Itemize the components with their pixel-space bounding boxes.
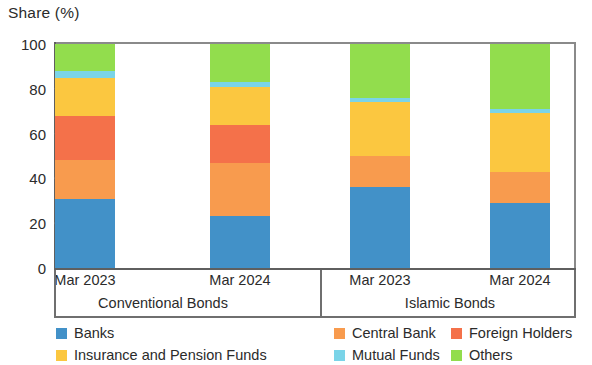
bar-segment	[350, 156, 410, 187]
group-axis-baseline	[54, 316, 576, 318]
legend-swatch-icon	[451, 328, 462, 339]
bar-segment	[55, 116, 115, 161]
legend-swatch-icon	[451, 350, 462, 361]
bar-segment	[55, 160, 115, 198]
x-axis-category-labels: Mar 2023Mar 2024Mar 2023Mar 2024	[55, 272, 575, 294]
bar-segment	[55, 78, 115, 116]
legend-label: Insurance and Pension Funds	[74, 348, 267, 363]
legend-item: Banks	[56, 326, 114, 341]
bar-segment	[490, 44, 550, 109]
bar-stack	[55, 44, 115, 268]
y-axis-tick-label: 40	[2, 170, 46, 187]
chart-legend: BanksCentral BankForeign HoldersInsuranc…	[56, 326, 586, 365]
x-axis-tick-label: Mar 2023	[349, 272, 410, 288]
bar-segment	[55, 199, 115, 268]
bar-segment	[350, 98, 410, 102]
legend-item: Others	[451, 348, 513, 363]
legend-item: Insurance and Pension Funds	[56, 348, 267, 363]
bar-segment	[490, 109, 550, 113]
legend-swatch-icon	[334, 328, 345, 339]
legend-label: Banks	[74, 326, 114, 341]
bar-segment	[350, 44, 410, 98]
legend-item: Foreign Holders	[451, 326, 572, 341]
legend-item: Mutual Funds	[334, 348, 440, 363]
x-axis-tick-label: Mar 2024	[489, 272, 550, 288]
y-axis-tick-label: 80	[2, 80, 46, 97]
bar-segment	[55, 71, 115, 78]
group-axis-left-cap	[54, 270, 56, 318]
y-axis-tick-label: 60	[2, 125, 46, 142]
legend-swatch-icon	[334, 350, 345, 361]
legend-swatch-icon	[56, 350, 67, 361]
y-axis-tick-label: 100	[2, 36, 46, 53]
legend-label: Others	[469, 348, 513, 363]
bar-segment	[55, 44, 115, 71]
legend-label: Foreign Holders	[469, 326, 572, 341]
x-axis-group-label: Conventional Bonds	[98, 295, 228, 311]
bar-stack	[350, 44, 410, 268]
x-axis-tick-label: Mar 2023	[54, 272, 115, 288]
bar-segment	[210, 44, 270, 82]
stacked-bar-chart: Share (%) 020406080100 Mar 2023Mar 2024M…	[0, 0, 592, 365]
x-axis-line	[54, 268, 576, 270]
group-divider	[320, 270, 322, 318]
legend-item: Central Bank	[334, 326, 436, 341]
bar-segment	[350, 102, 410, 156]
bar-segment	[350, 187, 410, 268]
bar-stack	[490, 44, 550, 268]
bar-segment	[490, 172, 550, 203]
bar-segment	[490, 203, 550, 268]
bar-segment	[210, 82, 270, 86]
legend-swatch-icon	[56, 328, 67, 339]
legend-label: Central Bank	[352, 326, 436, 341]
bar-stack	[210, 44, 270, 268]
y-axis-tick-label: 0	[2, 260, 46, 277]
legend-label: Mutual Funds	[352, 348, 440, 363]
bar-segment	[210, 125, 270, 163]
bar-segment	[490, 113, 550, 171]
y-axis-tick-label: 20	[2, 215, 46, 232]
plot-area	[55, 44, 575, 268]
x-axis-tick-label: Mar 2024	[209, 272, 270, 288]
x-axis-group-labels: Conventional BondsIslamic Bonds	[55, 295, 575, 317]
x-axis-group-label: Islamic Bonds	[405, 295, 495, 311]
bar-segment	[210, 216, 270, 268]
bar-segment	[210, 163, 270, 217]
group-axis-right-cap	[574, 270, 576, 318]
y-axis-title: Share (%)	[8, 4, 80, 22]
bar-segment	[210, 87, 270, 125]
